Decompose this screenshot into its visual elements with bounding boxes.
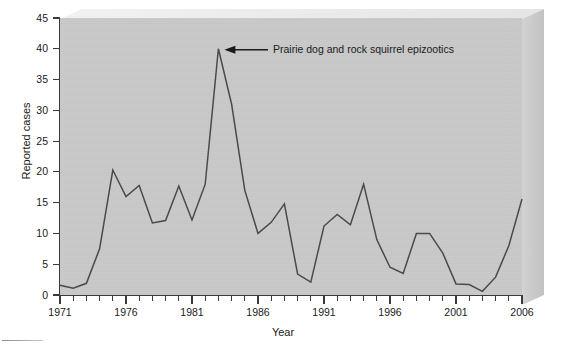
- chart-figure: 051015202530354045 197119761981198619911…: [0, 0, 566, 349]
- bottom-rule: [2, 340, 43, 341]
- annotation-label: Prairie dog and rock squirrel epizootics: [273, 43, 454, 55]
- annotation-arrow: [224, 46, 268, 54]
- reported-cases-line: [60, 49, 522, 292]
